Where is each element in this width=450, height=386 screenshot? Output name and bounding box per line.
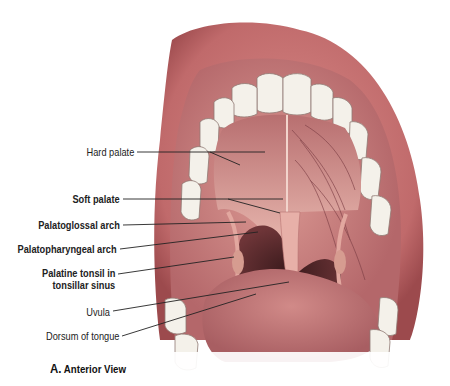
label-palatopharyngeal-arch: Palatopharyngeal arch xyxy=(18,243,117,255)
figure-caption: A. Anterior View xyxy=(50,361,126,376)
palatine-tonsil xyxy=(232,250,244,274)
caption-text: Anterior View xyxy=(64,363,126,375)
label-soft-palate: Soft palate xyxy=(73,193,120,205)
label-tonsillar-sinus: tonsillar sinus xyxy=(52,279,115,291)
label-uvula: Uvula xyxy=(86,306,110,318)
label-hard-palate: Hard palate xyxy=(86,146,134,158)
label-palatine-tonsil: Palatine tonsil in xyxy=(42,267,115,279)
oral-cavity-illustration xyxy=(0,0,450,386)
caption-letter: A. xyxy=(50,361,61,376)
label-dorsum-of-tongue: Dorsum of tongue xyxy=(46,330,119,342)
label-palatoglossal-arch: Palatoglossal arch xyxy=(38,219,120,231)
